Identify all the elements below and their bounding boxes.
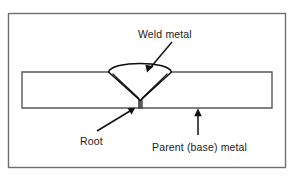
- weld-joint-cross-section-figure: Weld metal Root Parent (base) metal: [0, 0, 294, 177]
- parent-metal-label: Parent (base) metal: [152, 141, 247, 153]
- weld-metal-label: Weld metal: [138, 28, 192, 40]
- weld-diagram-container: Weld metal Root Parent (base) metal: [0, 0, 294, 177]
- root-label: Root: [80, 135, 103, 147]
